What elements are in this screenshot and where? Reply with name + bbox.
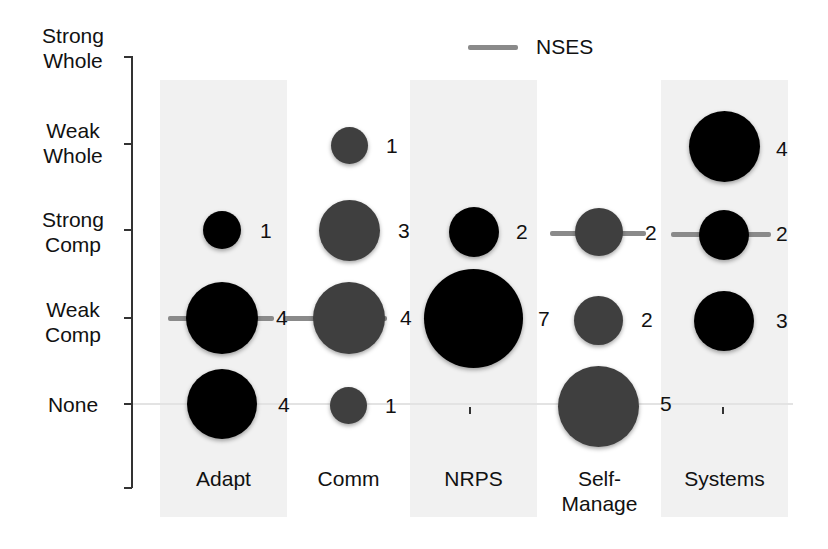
empty-marker (722, 407, 724, 414)
y-axis-tick (124, 403, 132, 405)
count-adapt-none: 4 (278, 393, 290, 417)
bubble-systems-strong-comp (699, 210, 749, 260)
count-adapt-weak-comp: 4 (276, 306, 288, 330)
count-self-manage-weak-comp: 2 (641, 308, 653, 332)
count-nrps-strong-comp: 2 (516, 220, 528, 244)
y-label-line: Comp (18, 322, 128, 347)
y-axis-tick (124, 143, 132, 145)
y-label-strong-comp: Strong Comp (18, 207, 128, 257)
category-label-systems: Systems (661, 466, 788, 491)
bubble-comm-strong-comp (319, 200, 380, 261)
category-label-line: Self- (536, 466, 663, 491)
y-label-strong-whole: Strong Whole (18, 23, 128, 73)
y-label-line: Strong (18, 207, 128, 232)
category-label-comm: Comm (285, 466, 412, 491)
category-label-adapt: Adapt (160, 466, 287, 491)
count-nrps-weak-comp: 7 (538, 307, 550, 331)
bubble-comm-weak-whole (331, 127, 368, 164)
y-axis-tick (124, 317, 132, 319)
count-comm-weak-whole: 1 (386, 134, 398, 158)
bubble-adapt-weak-comp (186, 282, 258, 354)
bubble-comm-none (330, 387, 367, 424)
y-label-none: None (18, 392, 128, 417)
legend-nses-line-icon (468, 45, 518, 50)
bubble-self-manage-weak-comp (574, 296, 623, 345)
count-self-manage-none: 5 (660, 392, 672, 416)
count-systems-weak-comp: 3 (776, 309, 788, 333)
count-systems-weak-whole: 4 (776, 137, 788, 161)
bubble-nrps-strong-comp (449, 207, 499, 257)
y-label-line: Weak (18, 118, 128, 143)
y-label-line: Whole (18, 48, 128, 73)
count-comm-strong-comp: 3 (398, 219, 410, 243)
bubble-self-manage-strong-comp (575, 208, 623, 256)
bubble-systems-weak-comp (694, 291, 754, 351)
category-label-nrps: NRPS (410, 466, 537, 491)
empty-marker (469, 407, 471, 414)
y-label-line: Strong (18, 23, 128, 48)
bubble-self-manage-none (558, 366, 639, 447)
y-label-weak-whole: Weak Whole (18, 118, 128, 168)
bubble-adapt-none (187, 369, 257, 439)
y-label-weak-comp: Weak Comp (18, 297, 128, 347)
bubble-systems-weak-whole (689, 111, 760, 182)
category-label-self-manage: Self- Manage (536, 466, 663, 516)
y-axis-line (131, 56, 133, 488)
bubble-comm-weak-comp (313, 282, 385, 354)
y-label-line: Weak (18, 297, 128, 322)
legend-nses-label: NSES (536, 34, 593, 59)
count-self-manage-strong-comp: 2 (645, 221, 657, 245)
y-label-line: Whole (18, 143, 128, 168)
y-label-line: Comp (18, 232, 128, 257)
y-axis-tick (124, 229, 132, 231)
count-comm-none: 1 (385, 394, 397, 418)
count-comm-weak-comp: 4 (400, 306, 412, 330)
y-axis-tick (124, 487, 132, 489)
count-adapt-strong-comp: 1 (260, 219, 272, 243)
bubble-adapt-strong-comp (203, 211, 241, 249)
y-axis-tick (124, 56, 132, 58)
bubble-nrps-weak-comp (424, 269, 523, 368)
category-label-line: Manage (536, 491, 663, 516)
count-systems-strong-comp: 2 (776, 222, 788, 246)
